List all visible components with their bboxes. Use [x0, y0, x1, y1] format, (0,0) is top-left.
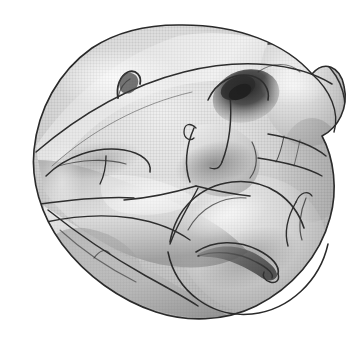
- silhouette-group: [0, 0, 358, 343]
- crumpled-surface-drawing: Crumpled Surface Illustration: [0, 0, 358, 343]
- halftone-texture-top: [0, 0, 358, 343]
- illustration-canvas: Crumpled Surface Illustration Grayscale …: [0, 0, 358, 343]
